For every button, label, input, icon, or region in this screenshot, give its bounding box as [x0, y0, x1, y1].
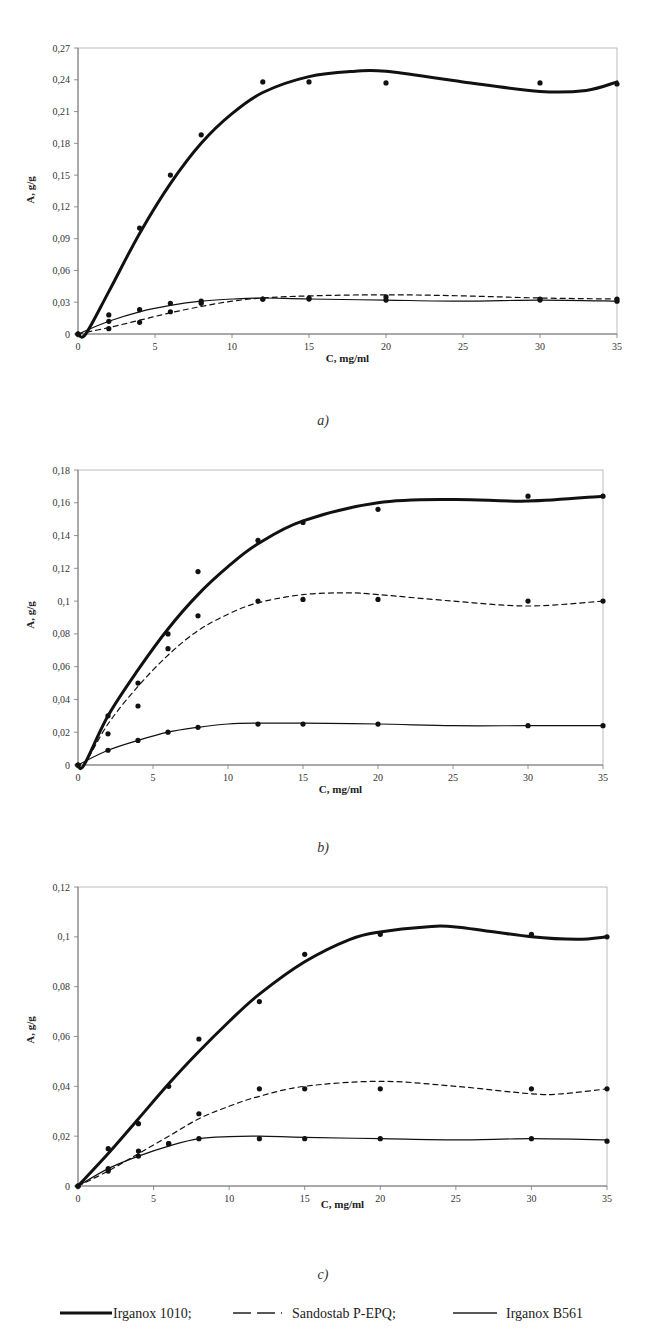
- data-point-sandostab-p-epq: [525, 599, 530, 604]
- data-point-irganox-1010: [260, 79, 265, 84]
- data-point-sandostab-p-epq: [378, 1086, 383, 1091]
- panel-caption: b): [317, 840, 329, 856]
- x-tick-label: 15: [300, 1193, 310, 1204]
- legend-label-irganox-b561: Irganox B561: [506, 1306, 583, 1321]
- data-point-irganox-b561: [166, 1141, 171, 1146]
- data-point-irganox-1010: [166, 1084, 171, 1089]
- x-tick-label: 35: [612, 341, 622, 352]
- data-point-irganox-1010: [137, 225, 142, 230]
- data-point-sandostab-p-epq: [137, 320, 142, 325]
- x-tick-label: 5: [151, 1193, 156, 1204]
- y-tick-label: 0,15: [53, 170, 71, 181]
- data-point-irganox-1010: [306, 79, 311, 84]
- data-point-sandostab-p-epq: [600, 599, 605, 604]
- y-tick-label: 0,24: [53, 74, 71, 85]
- adsorption-isotherm-figure: 00,030,060,090,120,150,180,210,240,27051…: [0, 0, 646, 1341]
- data-point-irganox-1010: [255, 538, 260, 543]
- data-point-sandostab-p-epq: [106, 326, 111, 331]
- fit-curve-irganox-1010: [78, 70, 617, 337]
- data-point-irganox-1010: [378, 932, 383, 937]
- x-tick-label: 0: [76, 772, 81, 783]
- y-tick-label: 0,06: [53, 1031, 71, 1042]
- data-point-irganox-b561: [306, 296, 311, 301]
- data-point-irganox-b561: [378, 1136, 383, 1141]
- y-tick-label: 0,18: [53, 138, 71, 149]
- data-point-irganox-b561: [383, 298, 388, 303]
- x-tick-label: 10: [227, 341, 237, 352]
- data-point-irganox-1010: [196, 1036, 201, 1041]
- x-tick-label: 10: [224, 1193, 234, 1204]
- chart-panel-a: 00,030,060,090,120,150,180,210,240,27051…: [24, 43, 622, 430]
- data-point-irganox-b561: [375, 721, 380, 726]
- data-point-irganox-b561: [135, 738, 140, 743]
- data-point-irganox-1010: [604, 934, 609, 939]
- fit-curve-irganox-b561: [78, 723, 603, 765]
- data-point-irganox-1010: [600, 494, 605, 499]
- data-point-irganox-1010: [106, 1146, 111, 1151]
- data-point-irganox-b561: [75, 331, 80, 336]
- data-point-sandostab-p-epq: [604, 1086, 609, 1091]
- x-tick-label: 30: [523, 772, 533, 783]
- data-point-sandostab-p-epq: [375, 597, 380, 602]
- x-tick-label: 15: [304, 341, 314, 352]
- data-point-irganox-b561: [255, 721, 260, 726]
- x-tick-label: 25: [458, 341, 468, 352]
- legend-label-irganox-1010: Irganox 1010;: [113, 1306, 192, 1321]
- chart-panel-b: 00,020,040,060,080,10,120,140,160,180510…: [24, 465, 608, 857]
- data-point-sandostab-p-epq: [302, 1086, 307, 1091]
- y-tick-label: 0,18: [53, 465, 71, 476]
- x-axis-label: C, mg/ml: [321, 1198, 364, 1210]
- data-point-irganox-b561: [136, 1154, 141, 1159]
- data-point-irganox-b561: [105, 748, 110, 753]
- fit-curve-irganox-1010: [78, 496, 603, 768]
- data-point-sandostab-p-epq: [300, 597, 305, 602]
- x-tick-label: 10: [223, 772, 233, 783]
- y-tick-label: 0,09: [53, 233, 71, 244]
- x-tick-label: 35: [602, 1193, 612, 1204]
- data-point-sandostab-p-epq: [255, 599, 260, 604]
- y-tick-label: 0: [65, 1181, 70, 1192]
- y-tick-label: 0,12: [53, 201, 71, 212]
- data-point-irganox-1010: [195, 569, 200, 574]
- y-tick-label: 0,04: [53, 694, 71, 705]
- y-axis-label: A, g/g: [24, 176, 36, 204]
- data-point-irganox-b561: [75, 762, 80, 767]
- data-point-irganox-b561: [600, 723, 605, 728]
- y-tick-label: 0,02: [53, 1131, 71, 1142]
- data-point-sandostab-p-epq: [196, 1111, 201, 1116]
- data-point-sandostab-p-epq: [136, 1149, 141, 1154]
- data-point-irganox-b561: [195, 725, 200, 730]
- fit-curve-irganox-b561: [78, 1136, 607, 1186]
- data-point-irganox-1010: [529, 932, 534, 937]
- y-tick-label: 0,08: [53, 628, 71, 639]
- data-point-irganox-1010: [537, 80, 542, 85]
- x-tick-label: 30: [526, 1193, 536, 1204]
- x-tick-label: 20: [375, 1193, 385, 1204]
- data-point-sandostab-p-epq: [105, 731, 110, 736]
- y-tick-label: 0: [65, 760, 70, 771]
- y-tick-label: 0,14: [53, 530, 71, 541]
- y-axis-label: A, g/g: [24, 1016, 36, 1044]
- data-point-irganox-b561: [302, 1136, 307, 1141]
- data-point-irganox-b561: [199, 299, 204, 304]
- data-point-irganox-b561: [257, 1136, 262, 1141]
- chart-panel-c: 00,020,040,060,080,10,1205101520253035C,…: [24, 882, 612, 1284]
- data-point-sandostab-p-epq: [135, 703, 140, 708]
- x-axis-label: C, mg/ml: [319, 783, 362, 795]
- y-axis-label: A, g/g: [24, 601, 36, 629]
- data-point-irganox-b561: [106, 1168, 111, 1173]
- y-tick-label: 0,02: [53, 727, 71, 738]
- y-tick-label: 0,12: [53, 882, 71, 893]
- data-point-irganox-1010: [105, 713, 110, 718]
- data-point-irganox-1010: [135, 680, 140, 685]
- legend: Irganox 1010; Sandostab P-EPQ; Irganox B…: [60, 1306, 583, 1321]
- y-tick-label: 0,21: [53, 106, 71, 117]
- x-tick-label: 0: [76, 341, 81, 352]
- data-point-sandostab-p-epq: [165, 646, 170, 651]
- data-point-irganox-1010: [614, 81, 619, 86]
- data-point-irganox-b561: [604, 1139, 609, 1144]
- data-point-irganox-1010: [257, 999, 262, 1004]
- data-point-irganox-1010: [525, 494, 530, 499]
- y-tick-label: 0,12: [53, 563, 71, 574]
- data-point-irganox-b561: [529, 1136, 534, 1141]
